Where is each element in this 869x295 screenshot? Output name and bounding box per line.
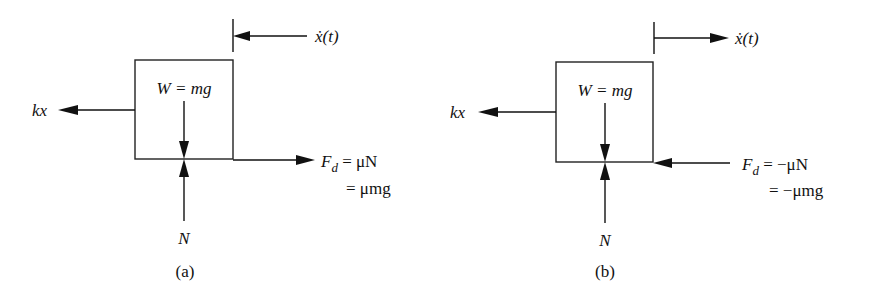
caption-a: (a) (176, 262, 195, 281)
spring-force-label: kx (32, 101, 48, 120)
weight-label: W = mg (157, 79, 212, 98)
friction-force-line1: Fd = μN (320, 152, 377, 175)
friction-arrow-left-icon (653, 158, 672, 168)
spring-force-arrow-left-icon (478, 107, 498, 117)
normal-force-label: N (598, 231, 612, 250)
velocity-arrow-right-icon (710, 33, 729, 43)
velocity-label: ẋ(t) (734, 29, 759, 48)
normal-arrow-up-icon (179, 159, 189, 177)
weight-arrow-down-icon (179, 141, 189, 159)
velocity-arrow-left-icon (233, 31, 250, 41)
panel-a: ẋ(t) kx W = mg N Fd = μN = μmg (a) (32, 19, 391, 281)
friction-arrow-right-icon (296, 155, 315, 165)
friction-force-line2: = −μmg (769, 181, 824, 200)
normal-arrow-up-icon (600, 162, 610, 180)
spring-force-label: kx (450, 103, 466, 122)
normal-force-label: N (177, 229, 191, 248)
velocity-label: ẋ(t) (314, 27, 339, 46)
friction-force-line2: = μmg (346, 179, 391, 198)
weight-label: W = mg (578, 81, 633, 100)
spring-force-arrow-left-icon (58, 105, 78, 115)
free-body-diagrams: ẋ(t) kx W = mg N Fd = μN = μmg (a) ẋ(t) … (0, 0, 869, 295)
caption-b: (b) (595, 262, 615, 281)
weight-arrow-down-icon (600, 144, 610, 162)
panel-b: ẋ(t) kx W = mg N Fd = −μN = −μmg (b) (450, 22, 824, 281)
friction-force-line1: Fd = −μN (741, 155, 808, 178)
